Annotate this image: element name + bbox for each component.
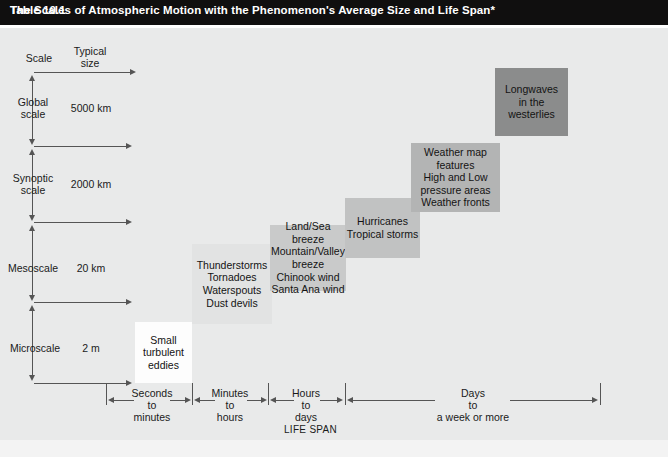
size-label-mesoscale: 20 km	[62, 262, 120, 275]
box-line: Mountain/Valley	[271, 245, 345, 258]
scale-label-synoptic-line2: scale	[4, 184, 62, 197]
box-line: Small	[143, 334, 184, 347]
figure-title-bar: Table 10.1 The Scales of Atmospheric Mot…	[0, 0, 668, 25]
size-label-synoptic: 2000 km	[62, 178, 120, 191]
scale-divider-arrow-top	[130, 69, 136, 75]
box-line: breeze	[271, 233, 345, 246]
box-line: westerlies	[505, 108, 558, 121]
box-line: Chinook wind	[271, 271, 345, 284]
lifespan-arrow-right-minutes	[261, 397, 267, 403]
phenomenon-box-small-turbulent-eddies: Small turbulent eddies	[135, 322, 192, 383]
figure-table-10-1: Table 10.1 The Scales of Atmospheric Mot…	[0, 0, 668, 457]
box-line: Land/Sea	[271, 220, 345, 233]
lifespan-tick-0	[106, 383, 107, 405]
lifespan-shaft-right-minutes	[247, 400, 262, 401]
scale-label-global-line1: Global	[4, 96, 62, 109]
box-line: High and Low	[420, 171, 490, 184]
global-scale-arrow-down	[29, 139, 35, 145]
phenomenon-box-longwaves: Longwaves in the westerlies	[495, 68, 568, 136]
lifespan-tick-2	[268, 383, 269, 405]
scale-axis-header: Scale	[14, 52, 64, 65]
lifespan-label-seconds-line3: minutes	[122, 411, 182, 423]
box-line: Hurricanes	[347, 215, 418, 228]
phenomenon-box-weather-map-features: Weather map features High and Low pressu…	[411, 143, 500, 212]
box-line: Weather map	[420, 146, 490, 159]
scale-divider-line-top	[34, 72, 132, 73]
box-line: Tornadoes	[197, 271, 268, 284]
lifespan-label-minutes-line1: Minutes	[203, 387, 257, 399]
box-line: Longwaves	[505, 83, 558, 96]
scale-divider-line-global-synoptic	[34, 146, 128, 147]
phenomenon-box-local-winds: Land/Sea breeze Mountain/Valley breeze C…	[270, 225, 346, 291]
scale-label-mesoscale: Mesoscale	[0, 262, 66, 275]
lifespan-label-seconds-line1: Seconds	[122, 387, 182, 399]
microscale-arrow-down	[29, 375, 35, 381]
box-line: Weather fronts	[420, 196, 490, 209]
scale-label-global-line2: scale	[4, 108, 62, 121]
lifespan-axis-title: LIFE SPAN	[284, 424, 337, 435]
lifespan-arrow-right-days	[592, 397, 598, 403]
box-line: Santa Ana wind	[271, 283, 345, 296]
lifespan-tick-1	[192, 383, 193, 405]
scale-divider-arrow-meso-micro	[126, 299, 132, 305]
size-label-microscale: 2 m	[62, 342, 120, 355]
lifespan-label-hours-line1: Hours	[281, 387, 331, 399]
box-line: Dust devils	[197, 297, 268, 310]
lifespan-shaft-right-days	[510, 400, 593, 401]
lifespan-label-hours-line3: days	[281, 411, 331, 423]
box-line: Thunderstorms	[197, 259, 268, 272]
lifespan-shaft-right-hours	[320, 400, 338, 401]
lifespan-arrow-right-seconds	[185, 397, 191, 403]
figure-title: The Scales of Atmospheric Motion with th…	[10, 4, 495, 16]
box-line: Tropical storms	[347, 228, 418, 241]
box-line: breeze	[271, 258, 345, 271]
mesoscale-arrow-down	[29, 295, 35, 301]
box-line: pressure areas	[420, 184, 490, 197]
scale-divider-line-bottom	[34, 383, 128, 384]
scale-label-synoptic-line1: Synoptic	[4, 172, 62, 185]
lifespan-arrow-right-hours	[337, 397, 343, 403]
scale-divider-line-meso-micro	[34, 302, 128, 303]
box-line: in the	[505, 96, 558, 109]
page-bottom-strip	[0, 440, 668, 457]
size-label-global: 5000 km	[62, 102, 120, 115]
lifespan-label-minutes-line3: hours	[203, 411, 257, 423]
lifespan-tick-3	[345, 383, 346, 405]
box-line: turbulent	[143, 346, 184, 359]
box-line: eddies	[143, 359, 184, 372]
lifespan-tick-4	[600, 383, 601, 405]
scale-divider-line-synoptic-meso	[34, 222, 128, 223]
synoptic-scale-arrow-down	[29, 215, 35, 221]
phenomenon-box-thunderstorms: Thunderstorms Tornadoes Waterspouts Dust…	[192, 244, 272, 324]
scale-divider-arrow-synoptic-meso	[126, 219, 132, 225]
box-line: Waterspouts	[197, 284, 268, 297]
box-line: features	[420, 159, 490, 172]
scale-label-microscale: Microscale	[0, 342, 70, 355]
lifespan-label-days-line1: Days	[420, 387, 526, 399]
scale-divider-arrow-global-synoptic	[126, 143, 132, 149]
scale-divider-arrow-bottom	[126, 380, 132, 386]
typical-size-header-line1: Typical	[60, 45, 120, 58]
lifespan-label-days-line3: a week or more	[420, 411, 526, 423]
typical-size-header-line2: size	[60, 57, 120, 70]
phenomenon-box-hurricanes: Hurricanes Tropical storms	[345, 198, 420, 258]
lifespan-shaft-right-seconds	[170, 400, 186, 401]
